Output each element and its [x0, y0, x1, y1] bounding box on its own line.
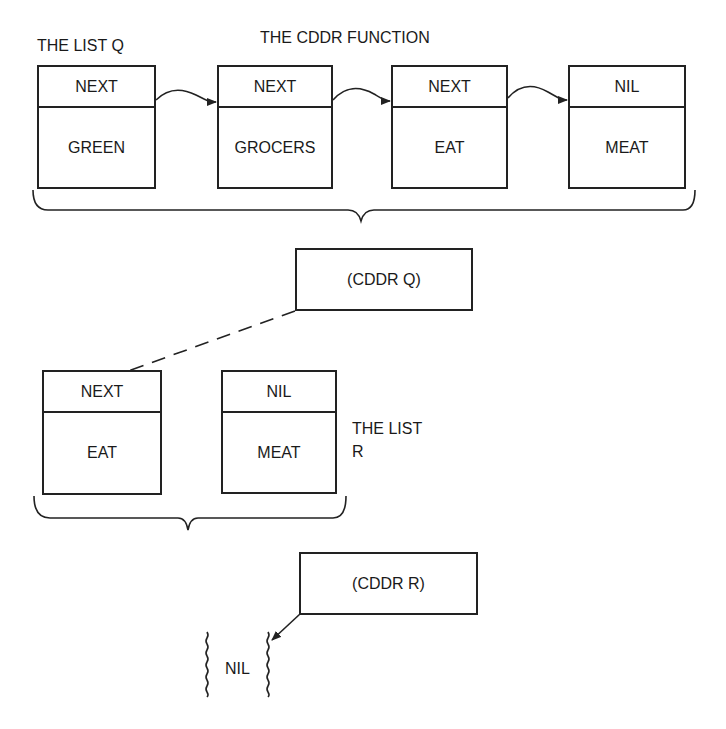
- pointer-arrow-1-2: [156, 90, 216, 102]
- connectors-layer: [0, 0, 726, 729]
- nil-right-bracket: [267, 632, 269, 697]
- dashed-connector: [128, 311, 295, 371]
- lower-brace: [34, 496, 346, 530]
- cddr-r-arrow: [272, 614, 300, 640]
- pointer-arrow-3-4: [508, 87, 567, 100]
- pointer-arrow-2-3: [333, 89, 390, 101]
- top-brace: [33, 190, 695, 221]
- nil-left-bracket: [206, 632, 208, 697]
